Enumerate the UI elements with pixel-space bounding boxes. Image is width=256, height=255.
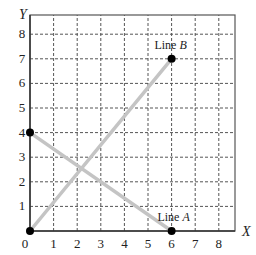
plot-frame xyxy=(30,15,235,231)
y-tick-label: 2 xyxy=(19,174,26,189)
x-tick-label: 1 xyxy=(50,236,57,251)
x-tick-label: 3 xyxy=(98,236,105,251)
x-axis-label: X xyxy=(241,224,251,239)
data-point-marker xyxy=(26,227,34,235)
data-series: Line ALine B xyxy=(26,38,190,235)
x-tick-label: 6 xyxy=(168,236,175,251)
x-tick-label: 0 xyxy=(22,236,29,251)
data-point-marker xyxy=(168,227,176,235)
data-point-marker xyxy=(26,129,34,137)
x-tick-label: 8 xyxy=(216,236,223,251)
y-tick-label: 1 xyxy=(19,198,26,213)
axes xyxy=(30,15,235,231)
grid-lines xyxy=(30,15,235,231)
series-label: Line A xyxy=(157,210,190,224)
y-tick-label: 4 xyxy=(19,125,26,140)
tick-labels: 01234567812345678 xyxy=(19,26,222,251)
series-label: Line B xyxy=(154,38,187,52)
x-tick-label: 5 xyxy=(145,236,152,251)
x-tick-label: 2 xyxy=(74,236,81,251)
y-tick-label: 5 xyxy=(19,100,26,115)
line-chart: 01234567812345678 Line ALine B X Y xyxy=(0,0,256,255)
data-point-marker xyxy=(168,55,176,63)
y-tick-label: 8 xyxy=(19,26,26,41)
y-axis-label: Y xyxy=(19,7,29,22)
x-tick-label: 4 xyxy=(121,236,128,251)
y-tick-label: 3 xyxy=(19,149,26,164)
y-tick-label: 7 xyxy=(19,51,26,66)
x-tick-label: 7 xyxy=(192,236,199,251)
y-tick-label: 6 xyxy=(19,75,26,90)
